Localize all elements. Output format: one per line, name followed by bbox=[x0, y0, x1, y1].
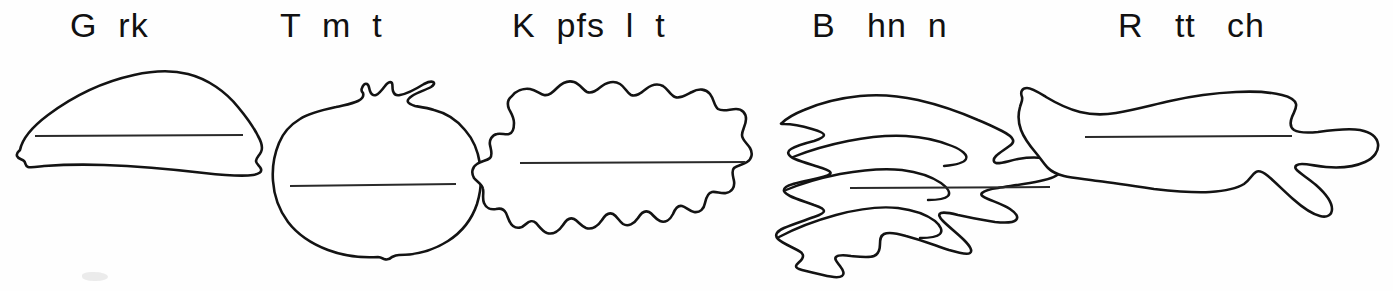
beans-outline bbox=[776, 95, 1060, 277]
pencil-smudge bbox=[82, 272, 108, 281]
label-tomate: T m t bbox=[280, 8, 383, 42]
writing-line-tomate bbox=[290, 184, 456, 186]
vegetable-worksheet: G rk T m t K pfs l t B hn n R tt ch bbox=[0, 0, 1393, 291]
writing-line-rettich bbox=[1085, 136, 1292, 137]
writing-line-gurke bbox=[35, 135, 243, 136]
label-gurke: G rk bbox=[70, 8, 149, 42]
cucumber-outline bbox=[17, 71, 262, 175]
tomato-outline bbox=[273, 82, 481, 260]
label-kopfsalat: K pfs l t bbox=[512, 8, 666, 42]
writing-line-kopfsalat bbox=[520, 162, 745, 163]
label-bohnen: B hn n bbox=[812, 8, 948, 42]
radish-outline bbox=[1019, 88, 1379, 217]
lettuce-outline bbox=[472, 81, 751, 233]
writing-line-bohnen bbox=[850, 187, 1050, 188]
label-rettich: R tt ch bbox=[1118, 8, 1265, 42]
